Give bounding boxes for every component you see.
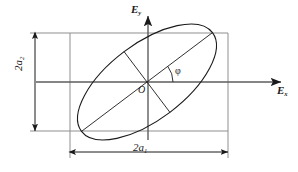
origin-label: O [138, 85, 145, 95]
phi-angle-arc [168, 66, 173, 82]
phi-angle-label: φ [175, 66, 181, 76]
axis-lines [36, 16, 281, 140]
vertical-axis-label: Ey [131, 4, 141, 15]
horizontal-axis-label: Ex [277, 85, 288, 96]
diagram-canvas [0, 0, 298, 172]
vertical-dimension-label: 2a2 [13, 57, 24, 71]
polarization-ellipse-figure: Ey Ex 2a2 2a1 O φ [0, 0, 298, 172]
horizontal-dimension-label: 2a1 [133, 142, 147, 153]
